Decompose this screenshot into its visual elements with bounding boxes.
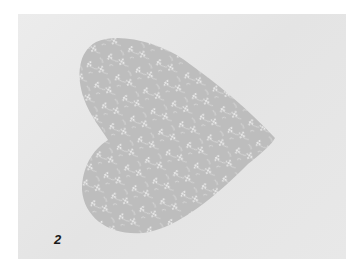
heart-shape — [80, 38, 275, 233]
photograph: 2 — [18, 14, 346, 259]
heart-fabric-shape — [18, 14, 346, 259]
figure-label: 2 — [54, 232, 61, 247]
